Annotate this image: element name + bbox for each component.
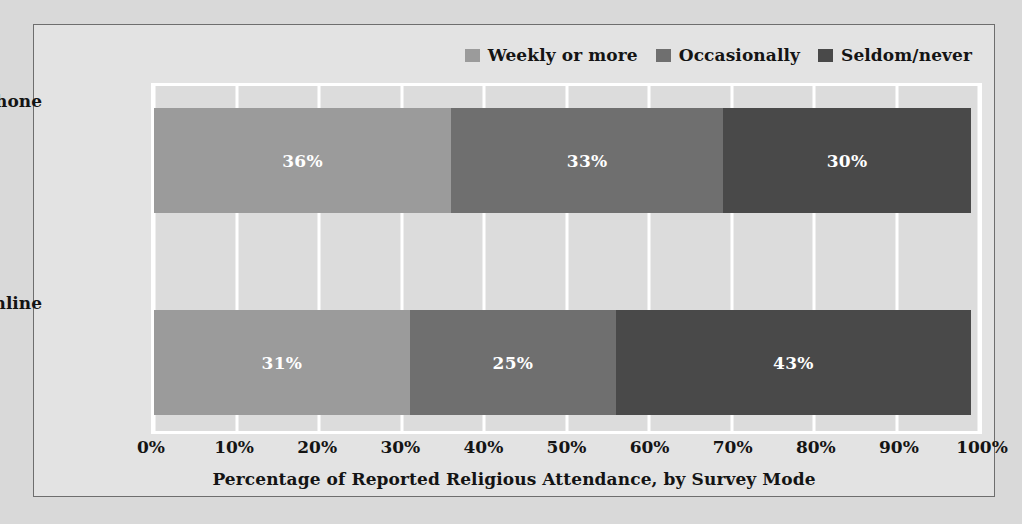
x-tick-label: 60% [630, 437, 670, 457]
x-tick-label: 90% [879, 437, 919, 457]
x-tick-label: 10% [214, 437, 254, 457]
x-tick-label: 80% [796, 437, 836, 457]
x-axis-ticks: 0%10%20%30%40%50%60%70%80%90%100% [151, 437, 982, 463]
legend-label: Occasionally [679, 45, 800, 65]
bar-value-label: 43% [773, 353, 814, 373]
category-label: Telephone [0, 91, 42, 111]
legend-entry[interactable]: Seldom/never [818, 45, 972, 65]
x-axis-label: Percentage of Reported Religious Attenda… [34, 469, 994, 489]
x-tick-label: 30% [380, 437, 420, 457]
bar-value-label: 31% [262, 353, 303, 373]
legend-swatch-icon [818, 49, 833, 62]
bar-segment[interactable]: 33% [451, 108, 723, 213]
x-tick-label: 50% [547, 437, 587, 457]
legend-label: Weekly or more [488, 45, 638, 65]
x-tick-label: 40% [463, 437, 503, 457]
plot-area: 36%33%30%31%25%43% [151, 83, 982, 434]
legend-entry[interactable]: Weekly or more [465, 45, 638, 65]
bar-segment[interactable]: 31% [154, 310, 410, 415]
bar-row: 31%25%43% [154, 310, 979, 415]
x-tick-label: 0% [137, 437, 165, 457]
chart-legend: Weekly or moreOccasionallySeldom/never [34, 45, 994, 65]
bar-segment[interactable]: 43% [616, 310, 971, 415]
bar-segment[interactable]: 25% [410, 310, 616, 415]
x-tick-label: 70% [713, 437, 753, 457]
bar-value-label: 33% [567, 151, 608, 171]
bar-segment[interactable]: 36% [154, 108, 451, 213]
legend-swatch-icon [465, 49, 480, 62]
bar-value-label: 30% [827, 151, 868, 171]
category-label: Online [0, 293, 42, 313]
x-tick-label: 100% [956, 437, 1008, 457]
x-tick-label: 20% [297, 437, 337, 457]
bar-segment[interactable]: 30% [723, 108, 971, 213]
legend-label: Seldom/never [841, 45, 972, 65]
legend-swatch-icon [656, 49, 671, 62]
bar-value-label: 25% [493, 353, 534, 373]
bar-value-label: 36% [282, 151, 323, 171]
bar-row: 36%33%30% [154, 108, 979, 213]
chart-figure: Weekly or moreOccasionallySeldom/never 3… [33, 24, 995, 497]
legend-entry[interactable]: Occasionally [656, 45, 800, 65]
